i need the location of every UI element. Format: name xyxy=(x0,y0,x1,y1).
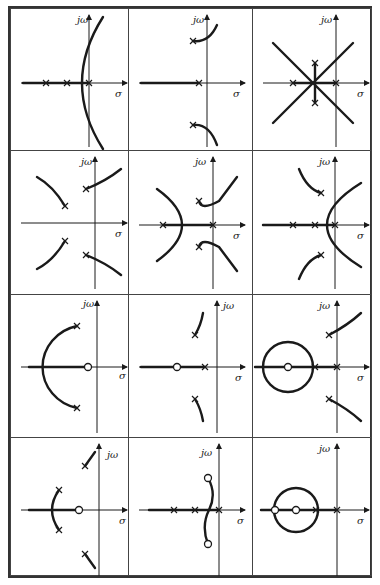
root-locus-panel-r1c3: jωσ xyxy=(252,8,372,151)
imag-axis-label: jω xyxy=(105,449,118,460)
locus-branch xyxy=(329,399,361,421)
zero-marker xyxy=(76,507,83,514)
real-axis-label: σ xyxy=(237,515,245,526)
locus-branch xyxy=(86,255,121,275)
real-axis-label: σ xyxy=(233,88,241,99)
s-plane-plot: jωσ xyxy=(11,151,135,297)
root-locus-panel-r4c1: jωσ xyxy=(10,437,129,576)
imag-axis-label: jω xyxy=(79,156,92,167)
zero-marker xyxy=(205,475,212,482)
real-axis-label: σ xyxy=(119,370,127,381)
real-axis-label: σ xyxy=(357,88,365,99)
zero-marker xyxy=(272,507,279,514)
real-axis-label: σ xyxy=(119,515,127,526)
root-locus-panel-r3c1: jωσ xyxy=(10,294,129,438)
pole-marker xyxy=(82,463,88,469)
locus-branch xyxy=(199,177,237,206)
zero-marker xyxy=(285,364,292,371)
locus-branch xyxy=(299,169,321,193)
locus-branch xyxy=(299,255,321,279)
root-locus-panel-r2c1: jωσ xyxy=(10,150,129,295)
s-plane-plot: jωσ xyxy=(253,9,377,155)
real-axis-label: σ xyxy=(357,230,365,241)
s-plane-plot: jωσ xyxy=(129,295,253,441)
imag-axis-label: jω xyxy=(75,14,88,25)
real-axis-label: σ xyxy=(357,372,365,383)
real-axis-label: σ xyxy=(115,228,123,239)
zero-marker xyxy=(174,364,181,371)
s-plane-plot: jωσ xyxy=(11,9,135,155)
root-locus-panel-r4c2: jωσ xyxy=(128,437,253,576)
zero-marker xyxy=(205,541,212,548)
imag-axis-label: jω xyxy=(317,156,330,167)
imag-axis-label: jω xyxy=(319,14,332,25)
imag-axis-label: jω xyxy=(191,14,204,25)
pole-marker xyxy=(82,551,88,557)
imag-axis-label: jω xyxy=(317,443,330,454)
root-locus-panel-r3c3: jωσ xyxy=(252,294,372,438)
locus-branch xyxy=(37,177,65,206)
locus-branch xyxy=(195,399,203,421)
root-locus-panel-r1c2: jωσ xyxy=(128,8,253,151)
root-locus-panel-r4c3: jωσ xyxy=(252,437,372,576)
s-plane-plot: jωσ xyxy=(129,151,253,297)
s-plane-plot: jωσ xyxy=(129,438,253,584)
locus-branch xyxy=(86,169,121,189)
imag-axis-label: jω xyxy=(317,300,330,311)
root-locus-grid: jωσjωσjωσjωσjωσjωσjωσjωσjωσjωσjωσjωσ xyxy=(8,6,372,578)
imag-axis-label: jω xyxy=(81,298,94,309)
root-locus-panel-r1c1: jωσ xyxy=(10,8,129,151)
s-plane-plot: jωσ xyxy=(11,295,135,441)
real-axis-label: σ xyxy=(233,230,241,241)
locus-branch xyxy=(37,241,65,269)
s-plane-plot: jωσ xyxy=(11,438,135,584)
s-plane-plot: jωσ xyxy=(253,438,377,584)
imag-axis-label: jω xyxy=(199,447,212,458)
root-locus-panel-r2c3: jωσ xyxy=(252,150,372,295)
root-locus-panel-r2c2: jωσ xyxy=(128,150,253,295)
s-plane-plot: jωσ xyxy=(253,151,377,297)
locus-branch xyxy=(195,313,203,335)
s-plane-plot: jωσ xyxy=(253,295,377,441)
zero-marker xyxy=(85,364,92,371)
locus-branch xyxy=(329,313,361,335)
locus-branch xyxy=(193,25,217,41)
root-locus-panel-r3c2: jωσ xyxy=(128,294,253,438)
imag-axis-label: jω xyxy=(221,300,234,311)
locus-branch xyxy=(193,125,217,145)
imag-axis-label: jω xyxy=(193,156,206,167)
real-axis-label: σ xyxy=(235,372,243,383)
s-plane-plot: jωσ xyxy=(129,9,253,155)
real-axis-label: σ xyxy=(115,88,123,99)
zero-marker xyxy=(293,507,300,514)
locus-branch xyxy=(199,242,237,271)
real-axis-label: σ xyxy=(357,515,365,526)
